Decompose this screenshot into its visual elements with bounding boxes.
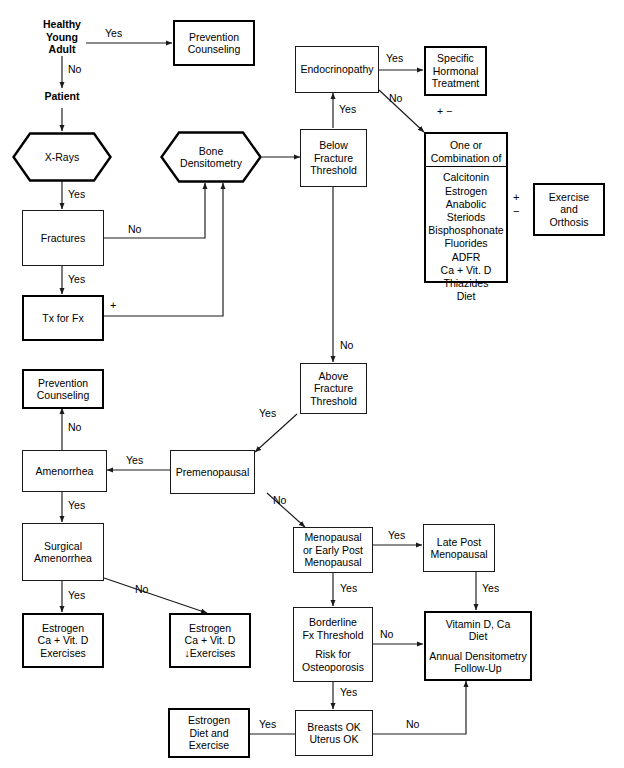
node-estrogen-diet-and-exercise[interactable]: Estrogen Diet and Exercise: [168, 708, 250, 758]
edge-label-amenorrhea-to-prevention: No: [68, 422, 81, 433]
vitamin-line-2: Annual Densitometry Follow-Up: [429, 650, 526, 675]
node-label: Below Fracture Threshold: [310, 139, 357, 177]
med-item: Estrogen: [426, 185, 506, 198]
node-label: Premenopausal: [176, 466, 250, 479]
edge-label-fractures-to-densitometry: No: [128, 224, 141, 235]
node-prevention-counseling-mid[interactable]: Prevention Counseling: [22, 369, 104, 409]
node-bone-densitometry[interactable]: Bone Densitometry: [160, 131, 262, 183]
edge-label-healthy-to-patient: No: [68, 64, 81, 75]
node-tx-for-fx[interactable]: Tx for Fx: [22, 295, 104, 341]
med-item: Bisphosphonate: [426, 224, 506, 237]
node-menopausal-or-early-post-menopausal[interactable]: Menopausal or Early Post Menopausal: [293, 527, 373, 573]
node-exercise-and-orthosis[interactable]: Exercise and Orthosis: [533, 183, 605, 236]
node-one-or-combination-of[interactable]: One or Combination of CalcitoninEstrogen…: [424, 132, 508, 283]
node-vitamin-d-ca-diet-annual-densitometry[interactable]: Vitamin D, Ca Diet Annual Densitometry F…: [424, 611, 532, 681]
med-item: Anabolic Steriods: [426, 198, 506, 224]
node-label: Amenorrhea: [36, 465, 94, 478]
med-item: Diet: [426, 290, 506, 303]
node-label: Above Fracture Threshold: [310, 370, 357, 408]
node-breasts-ok-uterus-ok[interactable]: Breasts OK Uterus OK: [295, 710, 373, 756]
borderline-line-2: Risk for Osteoporosis: [302, 648, 364, 673]
med-item: Calcitonin: [426, 171, 506, 184]
node-label: Tx for Fx: [42, 312, 83, 325]
med-item: ADFR: [426, 251, 506, 264]
edge-label-endocrinopathy-to-hormonal: Yes: [386, 53, 403, 64]
node-below-fracture-threshold[interactable]: Below Fracture Threshold: [300, 129, 367, 187]
edge-label-surgical-to-estrogen-exercises: Yes: [68, 590, 85, 601]
edge-label-amenorrhea-to-surgical: Yes: [68, 500, 85, 511]
node-healthy-young-adult[interactable]: Healthy Young Adult: [22, 16, 102, 58]
node-label: Menopausal or Early Post Menopausal: [303, 531, 363, 569]
node-patient[interactable]: Patient: [22, 88, 102, 104]
node-specific-hormonal-treatment[interactable]: Specific Hormonal Treatment: [424, 46, 487, 96]
node-label: X-Rays: [45, 151, 79, 164]
med-item: Fluorides: [426, 237, 506, 250]
edge-label-breasts-to-vitamin: No: [406, 719, 419, 730]
node-label: Patient: [44, 90, 79, 103]
node-endocrinopathy[interactable]: Endocrinopathy: [295, 46, 379, 93]
edge-label-late-post-to-vitamin: Yes: [482, 583, 499, 594]
med-item-list: CalcitoninEstrogenAnabolic SteriodsBisph…: [426, 171, 506, 303]
node-above-fracture-threshold[interactable]: Above Fracture Threshold: [300, 363, 367, 414]
edge-label-borderline-to-vitamin: No: [380, 629, 393, 640]
edge-label-menopausal-to-borderline: Yes: [340, 583, 357, 594]
borderline-line-1: Borderline Fx Threshold: [302, 616, 363, 641]
node-fractures[interactable]: Fractures: [22, 210, 104, 266]
node-label: Specific Hormonal Treatment: [432, 52, 479, 90]
plus-symbol-exercise: +: [513, 192, 519, 203]
node-late-post-menopausal[interactable]: Late Post Menopausal: [423, 524, 495, 572]
edge-label-surgical-to-estrogen-down: No: [135, 584, 148, 595]
node-prevention-counseling-top[interactable]: Prevention Counseling: [173, 20, 255, 66]
med-heading: One or Combination of: [426, 139, 506, 167]
node-label: Endocrinopathy: [301, 63, 374, 76]
node-label: Prevention Counseling: [188, 31, 241, 56]
node-xrays[interactable]: X-Rays: [12, 132, 112, 182]
node-surgical-amenorrhea[interactable]: Surgical Amenorrhea: [22, 523, 104, 581]
plus-minus-symbol-meds: + −: [437, 106, 452, 117]
flowchart-canvas: Healthy Young Adult Patient Prevention C…: [0, 0, 624, 768]
node-label: Estrogen Ca + Vit. D Exercises: [38, 622, 89, 660]
edge-label-menopausal-to-late-post: Yes: [388, 530, 405, 541]
edge-label-below-to-endocrinopathy: Yes: [339, 104, 356, 115]
vitamin-line-1: Vitamin D, Ca Diet: [446, 618, 511, 643]
plus-symbol-tx-for-fx: +: [110, 300, 116, 311]
edge-label-below-to-above: No: [340, 340, 353, 351]
node-amenorrhea[interactable]: Amenorrhea: [22, 450, 107, 492]
edge-label-healthy-to-prevention: Yes: [105, 28, 122, 39]
minus-symbol-exercise: −: [513, 206, 519, 217]
node-label: Fractures: [41, 232, 85, 245]
edge-label-above-to-premenopausal: Yes: [259, 408, 276, 419]
med-item: Thiazides: [426, 277, 506, 290]
edge-label-premenopausal-to-menopausal: No: [273, 495, 286, 506]
node-premenopausal[interactable]: Premenopausal: [170, 450, 255, 494]
node-label: Bone Densitometry: [180, 145, 242, 170]
edge-label-endocrinopathy-to-meds: No: [389, 93, 402, 104]
node-label: Breasts OK Uterus OK: [307, 721, 361, 746]
node-label: Prevention Counseling: [37, 377, 90, 402]
edge-label-premenopausal-to-amenorrhea: Yes: [126, 455, 143, 466]
edge-label-xrays-to-fractures: Yes: [68, 189, 85, 200]
node-label: Estrogen Diet and Exercise: [188, 714, 230, 752]
edge-label-fractures-to-tx: Yes: [68, 274, 85, 285]
node-label: Estrogen Ca + Vit. D ↓Exercises: [185, 622, 236, 660]
node-estrogen-ca-vitd-down-exercises[interactable]: Estrogen Ca + Vit. D ↓Exercises: [169, 613, 251, 668]
node-label: Healthy Young Adult: [43, 18, 81, 56]
node-label: Surgical Amenorrhea: [34, 540, 92, 565]
node-borderline-fx-threshold[interactable]: Borderline Fx Threshold Risk for Osteopo…: [293, 607, 373, 682]
med-item: Ca + Vit. D: [426, 264, 506, 277]
edge-label-borderline-to-breasts: Yes: [340, 687, 357, 698]
node-label: Exercise and Orthosis: [549, 191, 589, 229]
edge-label-breasts-to-estrogen-diet: Yes: [259, 719, 276, 730]
node-label: Late Post Menopausal: [430, 536, 487, 561]
node-estrogen-ca-vitd-exercises[interactable]: Estrogen Ca + Vit. D Exercises: [22, 613, 104, 668]
